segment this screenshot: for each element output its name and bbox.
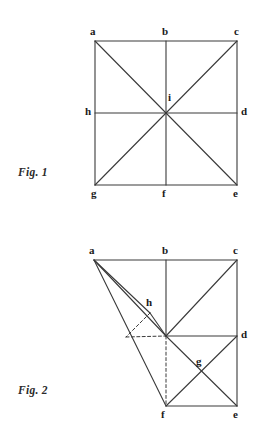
vertex-label-fig2-e: e	[233, 409, 238, 420]
fig1-line-group	[95, 41, 237, 185]
figure-page: Fig. 1 Fig. 2 abcdefghi abcdefhg	[0, 0, 266, 435]
vertex-label-fig1-f: f	[162, 188, 166, 199]
vertex-label-fig1-i: i	[168, 92, 171, 103]
vertex-label-fig1-b: b	[162, 26, 168, 37]
edge-ci	[166, 260, 237, 336]
vertex-label-fig2-f: f	[161, 409, 165, 420]
vertex-label-fig2-d: d	[241, 329, 247, 340]
vertex-label-fig2-g: g	[196, 356, 202, 367]
vertex-label-fig2-h: h	[146, 297, 152, 308]
vertex-label-fig1-e: e	[233, 188, 238, 199]
vertex-label-fig1-a: a	[90, 26, 96, 37]
vertex-label-fig1-g: g	[91, 188, 97, 199]
vertex-label-fig2-a: a	[89, 245, 95, 256]
edge-ah	[94, 260, 150, 313]
vertex-label-fig1-h: h	[85, 106, 91, 117]
vertex-label-fig2-b: b	[162, 245, 168, 256]
vertex-label-fig1-c: c	[234, 26, 239, 37]
figure-2-caption: Fig. 2	[18, 384, 48, 396]
geometry-diagram	[0, 0, 266, 435]
edge-ai	[94, 260, 166, 336]
edge-hi	[150, 313, 166, 336]
figure-1-caption: Fig. 1	[18, 166, 48, 178]
dashed-edge-hk	[126, 313, 150, 337]
fig2-line-group	[94, 260, 237, 406]
vertex-label-fig2-c: c	[233, 245, 238, 256]
vertex-label-fig1-d: d	[241, 106, 247, 117]
